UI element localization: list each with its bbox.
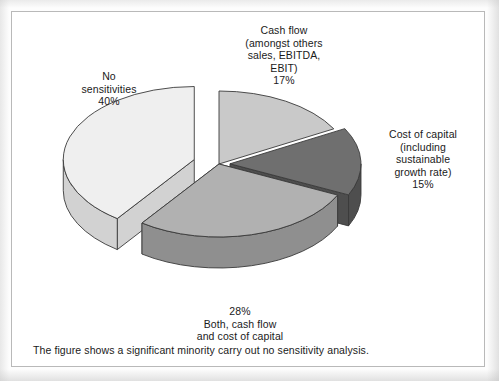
scanned-page: Cash flow (amongst others sales, EBITDA,… [0,0,499,381]
slice-label-both: 28% Both, cash flow and cost of capital [160,305,320,343]
figure-frame: Cash flow (amongst others sales, EBITDA,… [11,11,485,367]
figure-caption: The figure shows a significant minority … [33,344,465,357]
slice-label-cash-flow: Cash flow (amongst others sales, EBITDA,… [220,24,348,87]
slice-label-cost-of-capital: Cost of capital (including sustainable g… [364,128,482,191]
pie-chart-figure: Cash flow (amongst others sales, EBITDA,… [12,12,484,366]
slice-label-no-sensitivities: No sensitivities 40% [54,70,164,108]
pie-slices-group [63,87,361,268]
